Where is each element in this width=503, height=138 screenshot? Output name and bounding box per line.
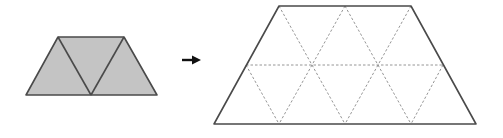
arrow-right-icon [182, 56, 201, 65]
diagram-svg [0, 0, 503, 138]
small-trapezoid [26, 37, 157, 95]
diagram-canvas [0, 0, 503, 138]
large-trapezoid-dashed-grid [246, 6, 443, 124]
large-trapezoid [214, 6, 476, 124]
small-trapezoid-shape [26, 37, 157, 95]
